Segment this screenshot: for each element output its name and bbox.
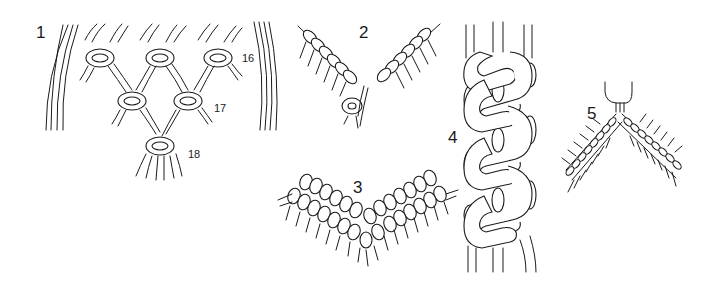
figure-2-label: 2 [359, 24, 368, 41]
figure-5-inverted-v-half-hitch: 5 [550, 40, 722, 240]
callout-17: 17 [214, 103, 226, 114]
figure-1-label: 1 [36, 24, 45, 41]
figure-5-label: 5 [587, 105, 596, 122]
figure-1-square-knot-network: 1 16 17 18 [0, 0, 290, 230]
figure-4-knot-sennit: 4 [440, 0, 550, 289]
figure-4-label: 4 [448, 129, 457, 146]
figure-3-label: 3 [353, 179, 362, 196]
figure-5-drawing [550, 40, 722, 240]
callout-18: 18 [188, 149, 200, 160]
callout-16: 16 [242, 53, 254, 64]
macrame-illustration: 1 16 17 18 [0, 0, 722, 289]
